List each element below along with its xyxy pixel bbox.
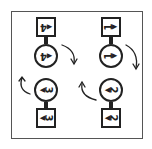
arrow-clockwise-icon (126, 45, 137, 68)
curved-arrows (0, 0, 152, 149)
arrow-counterclockwise-icon (21, 78, 30, 94)
